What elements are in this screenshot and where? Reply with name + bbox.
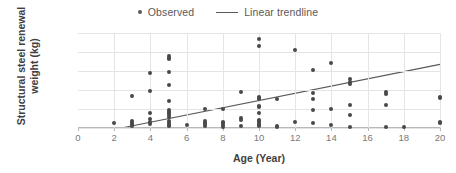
data-point (167, 57, 171, 61)
x-axis-tick (150, 128, 151, 131)
x-tick-label: 6 (172, 132, 202, 143)
data-point (167, 115, 171, 119)
x-axis-tick (440, 128, 441, 131)
data-point (348, 82, 352, 86)
data-point (384, 92, 388, 96)
gridline-vertical (295, 33, 296, 128)
data-point (311, 108, 315, 112)
legend-line-marker-icon (216, 12, 238, 13)
data-point (384, 125, 388, 129)
gridline-vertical (114, 33, 115, 128)
x-axis-title: Age (Year) (78, 152, 440, 164)
data-point (185, 123, 189, 127)
legend-entry-observed: Observed (138, 6, 194, 18)
data-point (438, 96, 442, 100)
data-point (239, 90, 243, 94)
x-axis-tick (295, 128, 296, 131)
data-point (438, 121, 442, 125)
chart-legend: Observed Linear trendline (0, 2, 456, 22)
legend-dot-marker-icon (138, 10, 142, 14)
data-point (130, 94, 134, 98)
data-point (275, 125, 279, 129)
y-axis-title: Structural steel renewal weight (kg) (0, 0, 56, 136)
x-tick-label: 2 (99, 132, 129, 143)
x-axis-tick (78, 128, 79, 131)
data-point (348, 103, 352, 107)
x-tick-label: 4 (135, 132, 165, 143)
x-tick-label: 12 (280, 132, 310, 143)
x-tick-label: 8 (208, 132, 238, 143)
x-tick-label: 14 (316, 132, 346, 143)
legend-entry-trendline: Linear trendline (216, 6, 318, 18)
data-point (167, 70, 171, 74)
legend-label-observed: Observed (148, 6, 194, 18)
x-axis-tick (259, 128, 260, 131)
scatter-chart: Observed Linear trendline Structural ste… (0, 0, 456, 173)
x-tick-label: 0 (63, 132, 93, 143)
data-point (167, 99, 171, 103)
x-tick-label: 16 (353, 132, 383, 143)
x-tick-label: 18 (389, 132, 419, 143)
data-point (167, 83, 171, 87)
gridline-vertical (404, 33, 405, 128)
gridline-vertical (223, 33, 224, 128)
gridline-vertical (440, 33, 441, 128)
gridline-vertical (368, 33, 369, 128)
x-tick-label: 10 (244, 132, 274, 143)
y-axis-title-text: Structural steel renewal weight (kg) (15, 0, 41, 136)
x-axis-tick (368, 128, 369, 131)
x-axis-tick (331, 128, 332, 131)
gridline-vertical (187, 33, 188, 128)
x-axis-title-text: Age (Year) (233, 152, 285, 164)
data-point (221, 107, 225, 111)
gridline-vertical (331, 33, 332, 128)
data-point (112, 121, 116, 125)
legend-label-trendline: Linear trendline (244, 6, 318, 18)
plot-area: 02,0004,0006,0008,00010,0000246810121416… (78, 33, 440, 128)
data-point (275, 97, 279, 101)
x-tick-label: 20 (425, 132, 455, 143)
data-point (384, 103, 388, 107)
data-point (203, 124, 207, 128)
x-axis-tick (187, 128, 188, 131)
data-point (348, 125, 352, 129)
x-axis-tick (114, 128, 115, 131)
data-point (311, 121, 315, 125)
data-point (221, 125, 225, 129)
